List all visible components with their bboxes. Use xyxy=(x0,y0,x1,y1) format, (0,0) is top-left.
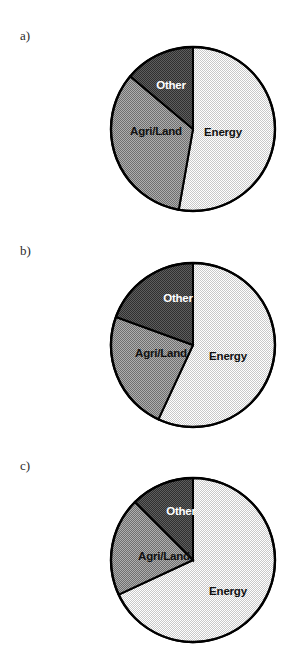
pie-chart-b: Energy Agri/Land Other xyxy=(108,260,278,430)
pie-c-label-agri-land: Agri/Land xyxy=(138,550,190,562)
pie-a-label-other: Other xyxy=(156,79,186,91)
pie-c-label-other: Other xyxy=(166,505,196,517)
pie-a-label-agri-land: Agri/Land xyxy=(130,125,182,137)
pie-a-svg: Energy Agri/Land Other xyxy=(108,44,278,214)
pie-chart-a: Energy Agri/Land Other xyxy=(108,44,278,214)
pie-b-label-agri-land: Agri/Land xyxy=(135,347,187,359)
pie-chart-c: Energy Agri/Land Other xyxy=(108,475,278,645)
panel-c: c) xyxy=(0,450,302,670)
panel-c-letter: c) xyxy=(20,458,30,474)
pie-b-svg: Energy Agri/Land Other xyxy=(108,260,278,430)
figure-root: a) xyxy=(0,0,302,670)
panel-b-letter: b) xyxy=(20,243,31,259)
panel-a: a) xyxy=(0,0,302,230)
panel-a-letter: a) xyxy=(20,28,30,44)
pie-b-label-other: Other xyxy=(163,292,193,304)
pie-c-svg: Energy Agri/Land Other xyxy=(108,475,278,645)
pie-c-label-energy: Energy xyxy=(209,585,248,597)
pie-b-label-energy: Energy xyxy=(209,350,248,362)
panel-b: b) xyxy=(0,230,302,450)
pie-a-label-energy: Energy xyxy=(204,126,243,138)
